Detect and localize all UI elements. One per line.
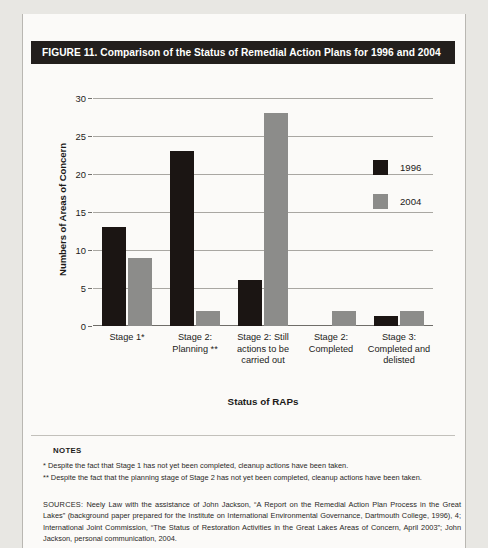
note-single-asterisk: * Despite the fact that Stage 1 has not … xyxy=(31,460,455,472)
y-tick-label-15: 15 xyxy=(76,207,86,218)
bar-group-stage-2-still-actions xyxy=(229,98,297,326)
bar-group-stage-2-completed xyxy=(297,98,365,326)
bar-2004-stage-2-completed xyxy=(332,311,356,326)
y-tick-mark-0 xyxy=(88,326,92,327)
x-tick-stage-3: Stage 3: Completed and delisted xyxy=(365,332,433,367)
legend-label-1996: 1996 xyxy=(400,162,421,173)
bar-2004-stage-2-planning xyxy=(196,311,220,326)
figure-panel: FIGURE 11. Comparison of the Status of R… xyxy=(22,14,466,548)
bar-1996-stage-3 xyxy=(374,316,398,326)
x-axis-tick-labels: Stage 1* Stage 2: Planning ** Stage 2: S… xyxy=(93,332,433,367)
y-tick-mark-5 xyxy=(88,288,92,289)
sources-kicker: SOURCES: xyxy=(43,500,83,509)
y-tick-label-25: 25 xyxy=(76,131,86,142)
x-tick-stage-2-planning: Stage 2: Planning ** xyxy=(161,332,229,367)
notes-divider xyxy=(31,435,455,436)
bar-1996-stage-1 xyxy=(102,227,126,326)
y-axis-label: Numbers of Areas of Concern xyxy=(57,135,68,285)
legend-item-2004: 2004 xyxy=(373,194,421,209)
page-background: FIGURE 11. Comparison of the Status of R… xyxy=(0,0,488,548)
bar-2004-stage-2-still-actions xyxy=(264,113,288,326)
bar-1996-stage-2-still-actions xyxy=(238,280,262,326)
note-double-asterisk: ** Despite the fact that the planning st… xyxy=(31,472,455,484)
x-axis-label: Status of RAPs xyxy=(93,396,433,407)
figure-title-bar: FIGURE 11. Comparison of the Status of R… xyxy=(31,41,455,64)
y-tick-mark-15 xyxy=(88,212,92,213)
bar-2004-stage-3 xyxy=(400,311,424,326)
legend-label-2004: 2004 xyxy=(400,196,421,207)
x-tick-stage-2-completed: Stage 2: Completed xyxy=(297,332,365,367)
bar-1996-stage-2-planning xyxy=(170,151,194,326)
x-tick-stage-1: Stage 1* xyxy=(93,332,161,367)
y-tick-mark-20 xyxy=(88,174,92,175)
bar-group-stage-1 xyxy=(93,98,161,326)
y-tick-label-20: 20 xyxy=(76,169,86,180)
legend-swatch-1996 xyxy=(373,160,388,175)
y-tick-mark-25 xyxy=(88,136,92,137)
y-tick-label-10: 10 xyxy=(76,245,86,256)
bar-2004-stage-1 xyxy=(128,258,152,326)
legend-item-1996: 1996 xyxy=(373,160,421,175)
y-tick-label-5: 5 xyxy=(81,283,86,294)
y-tick-mark-10 xyxy=(88,250,92,251)
y-tick-label-0: 0 xyxy=(81,321,86,332)
sources-block: SOURCES: Neely Law with the assistance o… xyxy=(43,499,461,545)
sources-text: Neely Law with the assistance of John Ja… xyxy=(43,500,461,543)
y-tick-label-30: 30 xyxy=(76,93,86,104)
notes-block: NOTES * Despite the fact that Stage 1 ha… xyxy=(31,446,455,484)
chart-legend: 1996 2004 xyxy=(373,160,421,228)
y-tick-mark-30 xyxy=(88,98,92,99)
x-tick-stage-2-still-actions: Stage 2: Still actions to be carried out xyxy=(229,332,297,367)
bar-group-stage-2-planning xyxy=(161,98,229,326)
legend-swatch-2004 xyxy=(373,194,388,209)
figure-title: FIGURE 11. Comparison of the Status of R… xyxy=(31,47,441,58)
chart: Numbers of Areas of Concern 30 25 20 15 … xyxy=(31,76,455,436)
notes-heading: NOTES xyxy=(31,446,455,455)
